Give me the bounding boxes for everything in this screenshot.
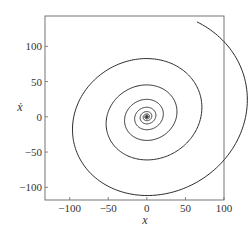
y-tick-label: 50 xyxy=(31,76,43,88)
y-tick-label: 100 xyxy=(26,40,43,52)
plot-area-frame xyxy=(45,16,224,200)
x-tick-label: −50 xyxy=(100,202,118,214)
y-axis-label: ẋ xyxy=(16,100,23,114)
y-tick-label: −50 xyxy=(25,146,43,158)
y-axis-ticks: −100−50050100 xyxy=(19,40,48,193)
phase-portrait-chart: −100−50050100 −100−50050100 x ẋ xyxy=(0,0,248,233)
x-tick-label: 50 xyxy=(180,202,192,214)
x-tick-label: −100 xyxy=(58,202,81,214)
spiral-trajectory xyxy=(72,22,247,196)
y-tick-label: −100 xyxy=(19,181,42,193)
y-tick-label: 0 xyxy=(37,111,43,123)
x-axis-label: x xyxy=(141,213,148,227)
x-tick-label: 100 xyxy=(216,202,233,214)
